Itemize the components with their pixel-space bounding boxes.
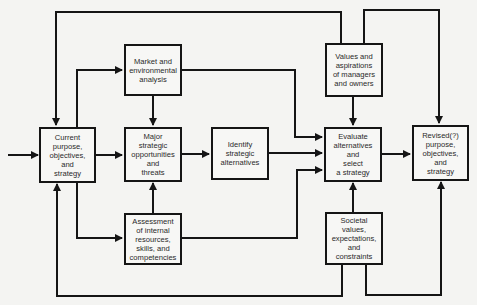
node-label: Assessment of internal resources, skills… — [130, 217, 177, 262]
node-label: Identify strategic alternatives — [221, 140, 260, 167]
node-evaluate-select: Evaluate alternatives and select a strat… — [324, 127, 382, 182]
node-label: Major strategic opportunities and threat… — [131, 132, 174, 177]
node-label: Revised(?) purpose, objectives, and stra… — [422, 131, 459, 176]
node-current-strategy: Current purpose, objectives, and strateg… — [39, 127, 96, 183]
node-societal-values: Societal values, expectations, and const… — [325, 212, 383, 265]
node-label: Evaluate alternatives and select a strat… — [334, 132, 373, 177]
node-opportunities-threats: Major strategic opportunities and threat… — [124, 127, 182, 182]
node-label: Current purpose, objectives, and strateg… — [50, 133, 86, 178]
node-internal-assessment: Assessment of internal resources, skills… — [124, 213, 182, 265]
node-revised-strategy: Revised(?) purpose, objectives, and stra… — [412, 125, 469, 181]
node-label: Market and environmental analysis — [129, 57, 177, 84]
node-values-aspirations: Values and aspirations of managers and o… — [325, 43, 383, 97]
node-identify-alternatives: Identify strategic alternatives — [211, 127, 269, 180]
node-market-analysis: Market and environmental analysis — [124, 44, 182, 96]
node-label: Values and aspirations of managers and o… — [333, 52, 375, 88]
node-label: Societal values, expectations, and const… — [332, 216, 377, 261]
